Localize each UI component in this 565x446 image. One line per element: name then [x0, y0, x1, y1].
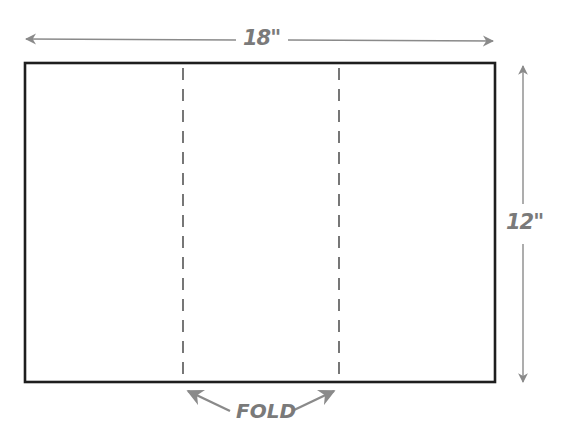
height-label: 12": [506, 208, 543, 236]
width-label: 18": [240, 26, 283, 50]
sheet-outline: [25, 63, 495, 382]
fold-label: FOLD: [236, 399, 296, 423]
trifold-diagram: [0, 0, 565, 446]
